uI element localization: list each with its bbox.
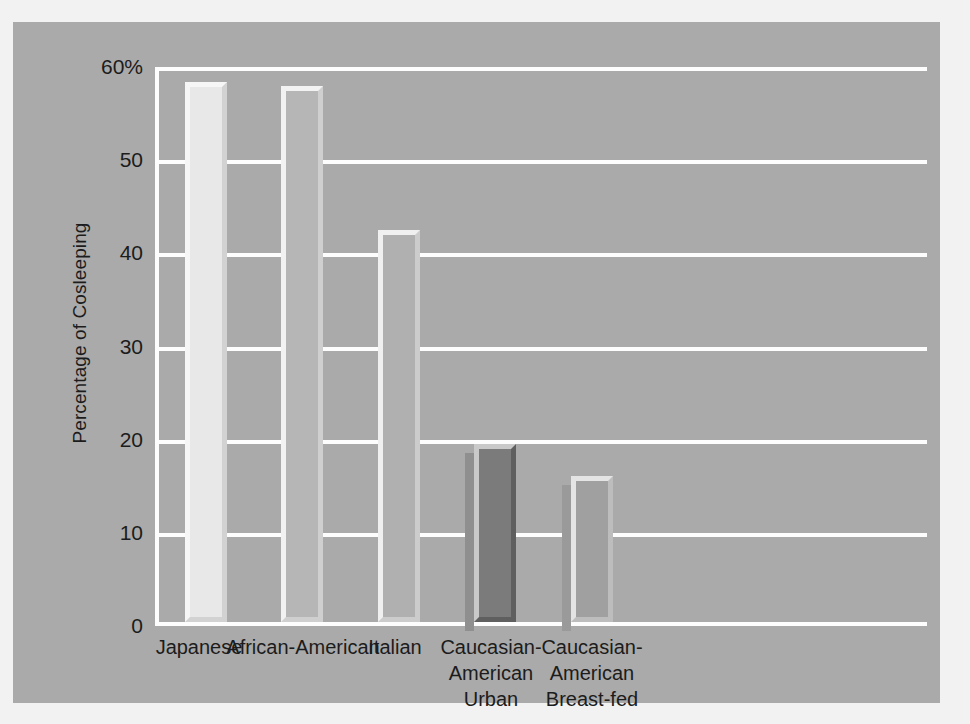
x-tick-label-caucasian-american-breast-fed: Caucasian- American Breast-fed <box>517 634 667 712</box>
bar-caucasian-american-breast-fed-body <box>571 476 613 622</box>
bar-italian-body <box>378 230 420 622</box>
bar-caucasian-american-urban[interactable] <box>474 444 516 622</box>
y-tick-label-20: 20 <box>23 428 143 452</box>
bar-african-american-body <box>281 86 323 622</box>
y-axis-tick-labels: 60% 50 40 30 20 10 0 <box>23 67 143 626</box>
bar-italian[interactable] <box>378 230 420 622</box>
gridline-20 <box>159 440 927 444</box>
y-tick-label-30: 30 <box>23 335 143 359</box>
chart-screenshot: Percentage of Cosleeping 60% 50 40 30 20… <box>0 0 970 724</box>
bar-japanese[interactable] <box>185 82 227 622</box>
y-tick-label-10: 10 <box>23 521 143 545</box>
gridline-10 <box>159 533 927 537</box>
bar-japanese-body <box>185 82 227 622</box>
bar-african-american[interactable] <box>281 86 323 622</box>
gridline-40 <box>159 253 927 257</box>
bar-caucasian-american-urban-shadow <box>465 453 474 631</box>
plot-area <box>155 67 927 626</box>
y-tick-label-40: 40 <box>23 241 143 265</box>
gridline-30 <box>159 347 927 351</box>
x-axis-tick-labels: Japanese African-American Italian Caucas… <box>155 634 927 719</box>
bar-caucasian-american-urban-body <box>474 444 516 622</box>
bar-caucasian-american-breast-fed-shadow <box>562 485 571 631</box>
y-tick-label-50: 50 <box>23 148 143 172</box>
figure-panel: Percentage of Cosleeping 60% 50 40 30 20… <box>13 22 940 703</box>
y-tick-label-60: 60% <box>23 55 143 79</box>
gridline-50 <box>159 160 927 164</box>
bar-caucasian-american-breast-fed[interactable] <box>571 476 613 622</box>
